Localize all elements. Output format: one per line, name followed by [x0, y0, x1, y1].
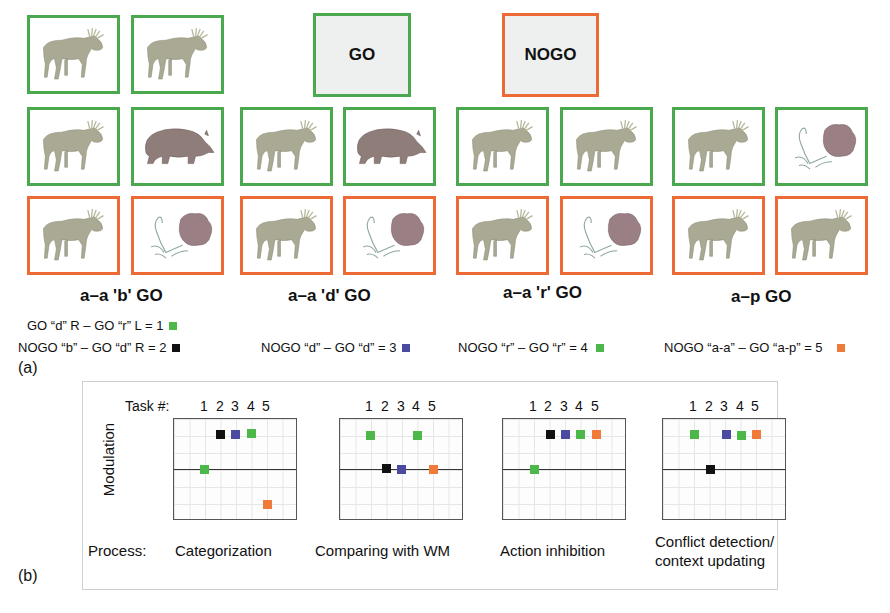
stimulus-card-moose: [775, 196, 868, 275]
legend-text: NOGO “d” – GO “d” = 3: [261, 340, 396, 355]
stimulus-card-moose: [672, 107, 765, 186]
marker-task-2: [216, 430, 225, 439]
tick-1: 1: [200, 398, 208, 414]
legend-text: NOGO “b” – GO “d” R = 2: [18, 340, 166, 355]
plot-conflict-detection: [662, 418, 786, 520]
stimulus-card-moose: [27, 107, 120, 186]
task-ticks: 1 2 3 4 5: [339, 398, 463, 414]
marker-task-4: [737, 431, 746, 440]
stimulus-card-moose: [560, 107, 653, 186]
moose-icon: [459, 110, 546, 183]
legend-swatch-orange: [837, 344, 845, 352]
marker-task-4: [247, 429, 256, 438]
legend-task-4: NOGO “r” – GO “r” = 4: [458, 340, 604, 355]
flower-icon: [134, 199, 221, 272]
marker-task-3: [722, 430, 731, 439]
stimulus-card-flower: [775, 107, 868, 186]
legend-task-5: NOGO “a-a” – GO “a-p” = 5: [664, 340, 845, 355]
task-ticks: 1 2 3 4 5: [173, 398, 297, 414]
moose-icon: [459, 199, 546, 272]
marker-task-1: [690, 430, 699, 439]
zero-line: [503, 469, 625, 470]
marker-task-3: [561, 430, 570, 439]
rhino-icon: [346, 110, 433, 183]
flower-icon: [778, 110, 865, 183]
tick-2: 2: [216, 398, 224, 414]
marker-task-1: [200, 465, 209, 474]
moose-icon: [243, 110, 330, 183]
legend-task-3: NOGO “d” – GO “d” = 3: [261, 340, 410, 355]
panel-label-b: (b): [18, 567, 38, 585]
flower-icon: [563, 199, 650, 272]
marker-task-3: [397, 465, 406, 474]
legend-task-1: GO “d” R – GO “r” L = 1: [27, 318, 177, 333]
zero-line: [663, 469, 785, 470]
task-ticks: 1 2 3 4 5: [662, 398, 786, 414]
marker-task-4: [576, 430, 585, 439]
moose-icon: [243, 199, 330, 272]
stimulus-card-moose: [456, 196, 549, 275]
tick-3: 3: [560, 398, 568, 414]
group-label-aa-b-go: a–a 'b' GO: [80, 286, 163, 306]
y-axis-label-modulation: Modulation: [100, 415, 117, 505]
stimulus-card-moose: [27, 196, 120, 275]
group-label-aa-r-go: a–a 'r' GO: [503, 283, 582, 303]
flower-icon: [346, 199, 433, 272]
stimulus-card-moose: [240, 196, 333, 275]
tick-2: 2: [544, 398, 552, 414]
tick-3: 3: [720, 398, 728, 414]
rhino-icon: [134, 110, 221, 183]
moose-icon: [675, 110, 762, 183]
tick-1: 1: [365, 398, 373, 414]
tick-2: 2: [381, 398, 389, 414]
stimulus-card-moose: [27, 15, 120, 94]
marker-task-4: [413, 431, 422, 440]
moose-icon: [30, 110, 117, 183]
tick-4: 4: [412, 398, 420, 414]
tick-4: 4: [575, 398, 583, 414]
stimulus-card-moose: [240, 107, 333, 186]
stimulus-card-flower: [560, 196, 653, 275]
stimulus-card-moose: [672, 196, 765, 275]
legend-text: NOGO “a-a” – GO “a-p” = 5: [664, 340, 823, 355]
process-label: Process:: [88, 541, 146, 560]
group-label-aa-d-go: a–a 'd' GO: [288, 286, 371, 306]
marker-task-3: [231, 430, 240, 439]
tick-4: 4: [736, 398, 744, 414]
tick-3: 3: [397, 398, 405, 414]
marker-task-5: [752, 430, 761, 439]
tick-5: 5: [591, 398, 599, 414]
marker-task-2: [706, 465, 715, 474]
tick-5: 5: [262, 398, 270, 414]
task-ticks: 1 2 3 4 5: [502, 398, 626, 414]
task-number-label: Task #:: [125, 398, 169, 414]
tick-1: 1: [689, 398, 697, 414]
marker-task-1: [530, 465, 539, 474]
tick-5: 5: [428, 398, 436, 414]
tick-1: 1: [529, 398, 537, 414]
panel-label-a: (a): [18, 359, 38, 377]
moose-icon: [134, 18, 221, 91]
marker-task-5: [429, 465, 438, 474]
nogo-cue-text: NOGO: [525, 45, 577, 65]
marker-task-2: [382, 464, 391, 473]
go-cue-box: GO: [313, 13, 411, 97]
moose-icon: [563, 110, 650, 183]
stimulus-card-rhino: [343, 107, 436, 186]
marker-task-2: [546, 430, 555, 439]
nogo-cue-box: NOGO: [502, 13, 599, 97]
marker-task-1: [366, 431, 375, 440]
stimulus-card-flower: [343, 196, 436, 275]
stimulus-card-flower: [131, 196, 224, 275]
stimulus-card-rhino: [131, 107, 224, 186]
tick-3: 3: [231, 398, 239, 414]
legend-task-2: NOGO “b” – GO “d” R = 2: [18, 340, 180, 355]
zero-line: [174, 469, 296, 470]
process-comparing-with-wm: Comparing with WM: [315, 541, 450, 560]
legend-swatch-green: [596, 344, 604, 352]
tick-4: 4: [247, 398, 255, 414]
group-label-ap-go: a–p GO: [731, 287, 791, 307]
tick-5: 5: [751, 398, 759, 414]
plot-categorization: [173, 418, 297, 520]
plot-action-inhibition: [502, 418, 626, 520]
